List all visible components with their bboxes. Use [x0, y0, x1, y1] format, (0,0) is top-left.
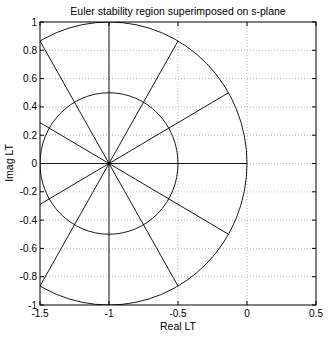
radial-line: [109, 93, 229, 164]
radial-line: [109, 164, 178, 287]
radial-line: [0, 93, 109, 164]
y-tick-label: -0.4: [20, 215, 38, 226]
radial-line: [0, 164, 109, 235]
axis-ticks: -1.5-1-0.500.5-1-0.8-0.6-0.4-0.200.20.40…: [20, 17, 324, 320]
plot-lines: [0, 22, 247, 305]
x-tick-label: -1: [105, 308, 114, 319]
x-tick-label: 0.5: [309, 308, 323, 319]
y-tick-label: -0.2: [20, 186, 38, 197]
y-tick-label: -0.8: [20, 271, 38, 282]
y-tick-label: 1: [31, 17, 37, 28]
y-tick-label: 0.4: [23, 101, 37, 112]
radial-line: [40, 41, 109, 164]
chart-title: Euler stability region superimposed on s…: [70, 5, 286, 17]
y-tick-label: -0.6: [20, 243, 38, 254]
origin-point: [107, 162, 110, 165]
y-tick-label: -1: [28, 300, 37, 311]
chart-figure: Euler stability region superimposed on s…: [0, 0, 335, 351]
radial-line: [40, 164, 109, 287]
radial-line: [109, 41, 178, 164]
y-tick-label: 0.6: [23, 73, 37, 84]
y-axis-label: Imag LT: [3, 144, 15, 182]
y-tick-label: 0.2: [23, 130, 37, 141]
x-axis-label: Real LT: [160, 320, 197, 332]
y-tick-label: 0.8: [23, 45, 37, 56]
x-tick-label: 0: [244, 308, 250, 319]
x-tick-label: -0.5: [169, 308, 187, 319]
radial-line: [109, 164, 229, 235]
y-tick-label: 0: [31, 158, 37, 169]
